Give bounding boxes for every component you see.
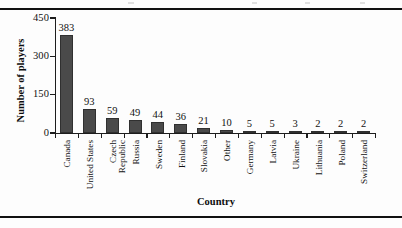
scan-artifact — [360, 2, 365, 4]
plot-area: 38393594944362110553222 — [55, 18, 375, 133]
x-axis-category-labels: CanadaUnited StatesCzechRepublicRussiaSw… — [55, 140, 376, 202]
x-axis-category-label: Lithuania — [315, 140, 324, 175]
bar — [129, 120, 142, 133]
x-axis-title: Country — [0, 196, 402, 207]
scan-artifact — [252, 2, 257, 4]
bar-chart-figure: Number of players 0150300450 38393594944… — [0, 0, 402, 228]
bar — [197, 128, 210, 133]
bar — [60, 35, 73, 133]
x-axis-tick — [352, 133, 353, 138]
x-axis-tick — [306, 133, 307, 138]
x-axis-category-label: Other — [223, 140, 232, 161]
x-axis-tick — [375, 133, 376, 138]
x-axis-category-label: Sweden — [155, 140, 164, 169]
bar — [311, 131, 324, 133]
y-axis-tick-label: 0 — [19, 128, 49, 139]
y-axis-tick-label: 150 — [19, 89, 49, 100]
x-axis-category-label: Ukraine — [292, 140, 301, 170]
bar — [220, 130, 233, 133]
x-axis-tick — [146, 133, 147, 138]
bar — [83, 109, 96, 133]
x-axis-tick — [215, 133, 216, 138]
bar — [106, 118, 119, 133]
x-axis-tick — [124, 133, 125, 138]
scan-artifact — [128, 2, 134, 4]
x-axis-category-label: Poland — [338, 140, 347, 166]
x-axis-tick — [238, 133, 239, 138]
bar — [266, 131, 279, 133]
bar-value-label: 383 — [49, 23, 83, 34]
x-axis-category-label: Canada — [63, 140, 72, 168]
x-axis-category-label: Republic — [118, 140, 127, 173]
y-axis-tick-label: 450 — [19, 13, 49, 24]
bar — [357, 131, 370, 133]
x-axis-tick — [55, 133, 56, 138]
x-axis-category-label: Latvia — [269, 140, 278, 163]
x-axis-tick — [169, 133, 170, 138]
bar-value-label: 2 — [347, 119, 381, 130]
bar — [151, 122, 164, 133]
y-axis-tick-label: 300 — [19, 51, 49, 62]
page-rule-top — [0, 8, 402, 10]
x-axis-tick — [329, 133, 330, 138]
bar — [174, 124, 187, 133]
scan-artifact — [305, 2, 310, 4]
bar — [243, 131, 256, 133]
x-axis-category-label: Russia — [132, 140, 141, 165]
x-axis-tick — [192, 133, 193, 138]
page-rule-bottom — [0, 216, 402, 218]
x-axis-tick — [261, 133, 262, 138]
x-axis-category-label: Germany — [246, 140, 255, 174]
x-axis-category-label: United States — [86, 140, 95, 189]
x-axis-category-label: Slovakia — [200, 140, 209, 172]
x-axis-category-label: Switzerland — [360, 140, 369, 184]
x-axis-category-label: Finland — [178, 140, 187, 168]
x-axis-tick — [101, 133, 102, 138]
x-axis-tick — [284, 133, 285, 138]
y-axis-tick-labels: 0150300450 — [15, 0, 49, 228]
bar — [289, 131, 302, 133]
bar — [334, 131, 347, 133]
x-axis-tick — [78, 133, 79, 138]
